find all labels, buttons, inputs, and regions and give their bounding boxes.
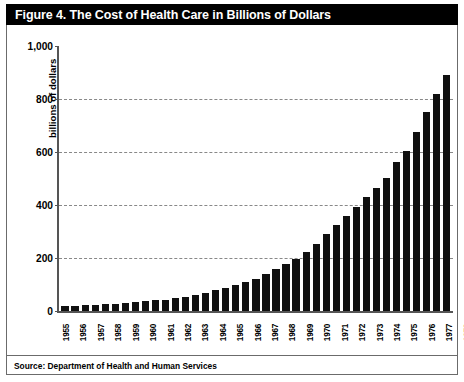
bar-slot	[120, 46, 130, 311]
figure-container: Figure 4. The Cost of Health Care in Bil…	[0, 0, 464, 382]
x-axis-tick-label: 1961	[167, 324, 176, 341]
x-axis-label-slot: 1976	[424, 315, 441, 353]
bar	[142, 301, 149, 311]
bar	[222, 288, 229, 311]
bar	[112, 304, 119, 311]
bar-series	[59, 46, 453, 311]
x-axis-label-slot: 1973	[372, 315, 389, 353]
bar	[152, 300, 159, 311]
x-axis-label-slot: 1963	[197, 315, 214, 353]
bar-slot	[331, 46, 341, 311]
y-axis-tick-label: 0	[47, 306, 53, 317]
x-axis-label-slot: 1959	[128, 315, 145, 353]
bar	[192, 295, 199, 311]
source-note: Source: Department of Health and Human S…	[6, 361, 217, 371]
bar-slot	[211, 46, 221, 311]
x-axis-tick-label: 1970	[324, 324, 333, 341]
x-axis-label-slot: 1969	[302, 315, 319, 353]
source-bar: Source: Department of Health and Human S…	[6, 355, 458, 375]
bar	[252, 279, 259, 311]
bar	[403, 151, 410, 311]
bar	[172, 298, 179, 311]
bar	[122, 303, 129, 311]
bar	[102, 304, 109, 311]
x-axis-tick-label: 1974	[393, 324, 402, 341]
y-axis-tick-label: 400	[36, 200, 53, 211]
x-axis-tick-label: 1971	[341, 324, 350, 341]
x-axis-tick-label: 1958	[114, 324, 123, 341]
bar-slot	[442, 46, 452, 311]
figure-title-bar: Figure 4. The Cost of Health Care in Bil…	[6, 4, 458, 25]
bar	[61, 306, 68, 311]
x-axis-tick-label: 1962	[184, 324, 193, 341]
bar	[353, 207, 360, 311]
bar-slot	[221, 46, 231, 311]
x-axis-label-slot: 1967	[267, 315, 284, 353]
bar	[292, 259, 299, 311]
x-axis-tick-label: 1966	[254, 324, 263, 341]
bar	[383, 178, 390, 311]
y-axis-tick-label: 600	[36, 147, 53, 158]
bar-slot	[80, 46, 90, 311]
x-axis-tick-label: 1956	[80, 324, 89, 341]
bar-slot	[110, 46, 120, 311]
bar	[182, 297, 189, 311]
x-axis-label-slot: 1964	[215, 315, 232, 353]
bar	[71, 306, 78, 311]
x-axis-tick-label: 1959	[132, 324, 141, 341]
bar-slot	[60, 46, 70, 311]
x-axis-tick-label: 1968	[289, 324, 298, 341]
bar	[262, 274, 269, 311]
x-axis-label-slot: 1974	[389, 315, 406, 353]
bar	[132, 302, 139, 311]
bar	[393, 162, 400, 311]
bar	[313, 244, 320, 311]
x-axis-tick-label: 1963	[202, 324, 211, 341]
x-axis-tick-label: 1955	[62, 324, 71, 341]
bar-slot	[422, 46, 432, 311]
bar-slot	[402, 46, 412, 311]
x-axis-labels: 1955195619571958195919601961196219631964…	[57, 315, 453, 353]
bar	[303, 252, 310, 311]
x-axis-label-slot: 1965	[232, 315, 249, 353]
bar	[82, 305, 89, 311]
bar-slot	[351, 46, 361, 311]
bar	[272, 269, 279, 311]
x-axis-label-slot: 1968	[284, 315, 301, 353]
bar-slot	[201, 46, 211, 311]
bar-slot	[281, 46, 291, 311]
bar-slot	[140, 46, 150, 311]
plot-area: billions of dollars 1,0008006004002000	[57, 46, 453, 313]
x-axis-label-slot: 1966	[250, 315, 267, 353]
bar	[202, 293, 209, 311]
bar-slot	[291, 46, 301, 311]
bar	[363, 197, 370, 311]
bar-slot	[251, 46, 261, 311]
bar-slot	[412, 46, 422, 311]
bar	[92, 305, 99, 311]
bar-slot	[241, 46, 251, 311]
x-axis-tick-label: 1972	[358, 324, 367, 341]
y-axis-tick-label: 200	[36, 253, 53, 264]
x-axis-tick-label: 1969	[306, 324, 315, 341]
bar-slot	[321, 46, 331, 311]
bar-slot	[341, 46, 351, 311]
y-axis-tick-label: 800	[36, 94, 53, 105]
bar	[443, 75, 450, 311]
x-axis-label-slot: 1956	[75, 315, 92, 353]
bar	[433, 94, 440, 311]
bar	[343, 216, 350, 311]
x-axis-label-slot: 1958	[110, 315, 127, 353]
bar-slot	[171, 46, 181, 311]
bar-slot	[311, 46, 321, 311]
bar	[212, 290, 219, 311]
bar-slot	[181, 46, 191, 311]
bar-slot	[150, 46, 160, 311]
x-axis-tick-label: 1975	[411, 324, 420, 341]
x-axis-tick-label: 1960	[149, 324, 158, 341]
x-axis-tick-label: 1964	[219, 324, 228, 341]
x-axis-tick-label: 1967	[271, 324, 280, 341]
x-axis-tick-label: 1957	[97, 324, 106, 341]
bar	[423, 112, 430, 311]
bar	[162, 300, 169, 311]
